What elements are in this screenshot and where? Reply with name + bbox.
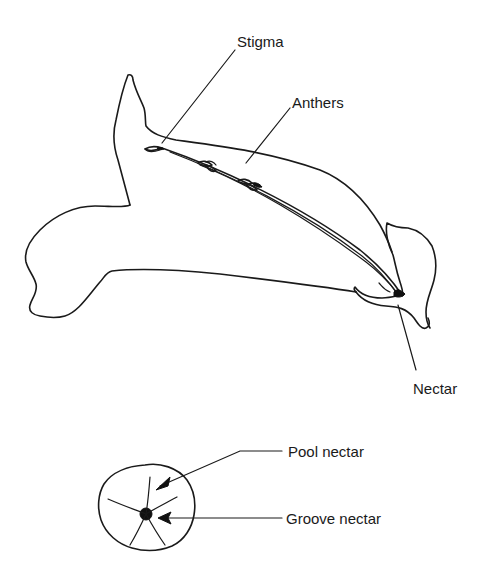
- stigma-head: [145, 147, 164, 152]
- groove-line: [146, 497, 177, 514]
- flower-upper-outline: [114, 75, 392, 252]
- groove-nectar-label: Groove nectar: [286, 511, 381, 526]
- style-lower-line: [170, 152, 398, 295]
- calyx-right-lobe: [386, 223, 435, 328]
- stigma-leader-line: [162, 50, 235, 143]
- groove-line: [130, 514, 146, 545]
- flower-lower-outline: [26, 205, 356, 318]
- nectary-curl: [379, 283, 390, 292]
- flower-diagram: [0, 0, 497, 572]
- anthers-label: Anthers: [292, 95, 344, 110]
- groove-line: [108, 499, 146, 514]
- pool-nectar-label: Pool nectar: [288, 444, 364, 459]
- flower-side-view: [26, 75, 436, 329]
- nectar-spot: [394, 290, 405, 297]
- nectar-label: Nectar: [413, 381, 457, 396]
- stigma-label: Stigma: [237, 34, 284, 49]
- groove-nectar-arrow: [158, 512, 282, 524]
- filament-line: [200, 165, 400, 296]
- nectar-leader-line: [398, 305, 416, 370]
- style-upper-line: [162, 148, 402, 295]
